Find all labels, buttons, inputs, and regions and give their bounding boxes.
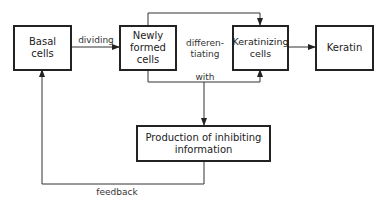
edge-label-differentiating-2: tiating (180, 49, 230, 59)
node-keratinizing-cells: Keratinizingcells (232, 25, 289, 71)
production-line2: information (146, 144, 262, 156)
node-keratin: Keratin (315, 25, 374, 71)
node-basal-cells: Basalcells (13, 25, 72, 71)
keratin-label: Keratin (327, 42, 363, 54)
newly-line3: cells (130, 54, 166, 66)
edge-label-dividing: dividing (76, 35, 116, 45)
node-newly-formed-cells: Newlyformedcells (119, 25, 177, 71)
keratinizing-line2: cells (232, 48, 288, 60)
edge-label-feedback: feedback (92, 187, 142, 197)
keratinizing-line1: Keratinizing (232, 36, 288, 48)
newly-line1: Newly (130, 30, 166, 42)
basal-line2: cells (29, 48, 56, 60)
edge-label-differentiating-1: differen- (180, 38, 230, 48)
edge-label-with: with (185, 72, 225, 82)
node-production-inhibiting-information: Production of inhibitinginformation (136, 125, 271, 162)
basal-line1: Basal (29, 36, 56, 48)
newly-line2: formed (130, 42, 166, 54)
arrow-top-differentiating (148, 13, 260, 25)
production-line1: Production of inhibiting (146, 132, 262, 144)
